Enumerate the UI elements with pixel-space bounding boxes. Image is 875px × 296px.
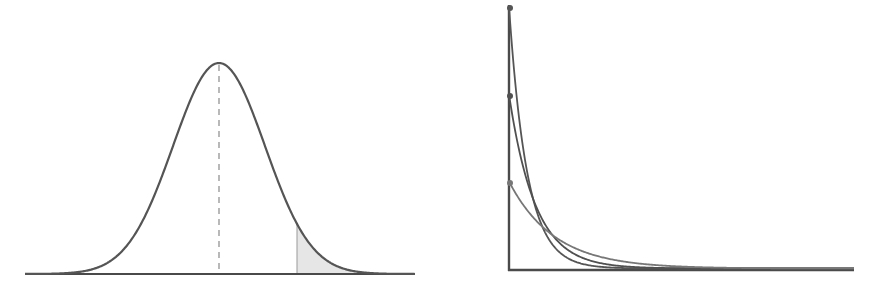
decay-curves-group (507, 5, 854, 269)
bell-curve (25, 63, 415, 274)
curve-high-rate (509, 7, 854, 269)
figure-canvas (0, 0, 875, 296)
curve-low-rate (509, 182, 854, 269)
exponential-decay-panel (507, 5, 854, 271)
curve-low-rate-start-point (507, 180, 513, 186)
curve-mid-rate-start-point (507, 93, 513, 99)
curve-mid-rate (509, 95, 854, 269)
curve-high-rate-start-point (507, 5, 513, 11)
normal-distribution-panel (25, 63, 415, 274)
